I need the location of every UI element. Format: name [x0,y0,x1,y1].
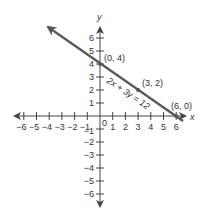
y-tick-label: 4 [89,59,94,69]
x-tick-label: 2 [123,122,128,132]
x-tick-label: −2 [67,122,77,132]
coordinate-plane: −6 −5 −4 −3 −2 −1 1 2 3 4 5 6 x 0 [0,0,206,219]
y-tick-label: −1 [84,126,94,136]
y-axis-label: y [96,12,102,22]
point-0-4 [98,62,102,66]
point-3-2 [136,88,140,92]
origin-label: 0 [102,118,107,128]
equation-line [48,27,183,121]
y-tick-label: 3 [89,72,94,82]
x-tick-label: 6 [174,122,179,132]
x-axis-label: x [189,112,195,122]
point-label-6-0: (6, 0) [171,101,192,111]
point-6-0 [174,114,178,118]
y-tick-label: 1 [89,98,94,108]
x-axis: −6 −5 −4 −3 −2 −1 1 2 3 4 5 6 x 0 [15,112,195,132]
x-tick-label: −4 [42,122,52,132]
y-tick-label: −3 [84,150,94,160]
y-tick-label: 5 [89,46,94,56]
y-axis: 6 5 4 3 2 1 −1 −2 −3 −4 −5 −6 y [84,12,104,206]
x-tick-label: 4 [148,122,153,132]
x-tick-label: −5 [29,122,39,132]
x-tick-label: −3 [54,122,64,132]
y-tick-label: −6 [84,189,94,199]
y-tick-label: 6 [89,33,94,43]
y-tick-label: 2 [89,85,94,95]
x-tick-label: −6 [16,122,26,132]
y-tick-label: −2 [84,137,94,147]
x-tick-label: 3 [136,122,141,132]
y-tick-label: −4 [84,163,94,173]
x-tick-label: 1 [110,122,115,132]
line-series [48,27,183,121]
x-tick-label: 5 [161,122,166,132]
point-label-0-4: (0, 4) [104,53,125,63]
y-tick-label: −5 [84,176,94,186]
point-label-3-2: (3, 2) [142,78,163,88]
